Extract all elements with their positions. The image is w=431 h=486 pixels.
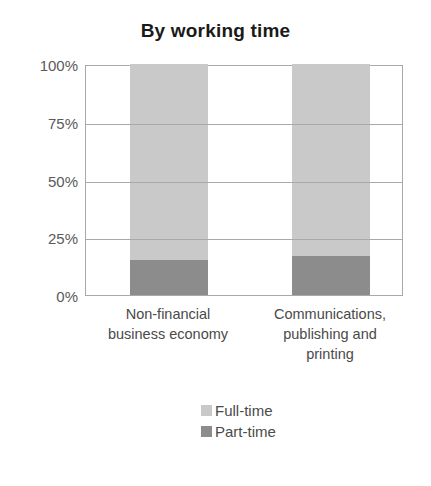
y-tick-label-0: 0% <box>0 288 78 305</box>
chart-legend: Full-time Part-time <box>0 402 431 444</box>
legend-swatch-full-time <box>201 405 212 416</box>
plot-area <box>85 65 403 296</box>
bar-segment-part-time[interactable] <box>130 260 208 295</box>
y-tick-label-25: 25% <box>0 230 78 247</box>
gridline-75 <box>86 124 402 125</box>
bar-segment-full-time[interactable] <box>130 64 208 260</box>
y-tick-label-50: 50% <box>0 172 78 189</box>
category-label-non-financial-business-economy: Non-financial business economy <box>93 304 243 344</box>
gridline-25 <box>86 239 402 240</box>
bar-stack-non-financial-business-economy[interactable] <box>130 64 208 295</box>
category-label-line: publishing and <box>255 324 405 344</box>
category-label-line: Non-financial <box>93 304 243 324</box>
plot-inner <box>86 66 402 295</box>
chart-title: By working time <box>0 20 431 42</box>
category-label-line: business economy <box>93 324 243 344</box>
chart-figure: By working time 100% 75% 50% 25% 0% Non-… <box>0 0 431 486</box>
bar-segment-part-time[interactable] <box>292 256 370 295</box>
y-axis: 100% 75% 50% 25% 0% <box>0 65 78 296</box>
category-label-line: printing <box>255 344 405 364</box>
gridline-50 <box>86 182 402 183</box>
legend-label-part-time: Part-time <box>215 423 276 440</box>
bar-segment-full-time[interactable] <box>292 64 370 256</box>
legend-swatch-part-time <box>201 426 212 437</box>
bar-stack-communications-publishing-printing[interactable] <box>292 64 370 295</box>
category-label-line: Communications, <box>255 304 405 324</box>
x-axis-category-labels: Non-financial business economy Communica… <box>85 304 403 392</box>
legend-item-part-time[interactable]: Part-time <box>0 423 431 440</box>
category-label-communications-publishing-printing: Communications, publishing and printing <box>255 304 405 364</box>
y-tick-label-100: 100% <box>0 57 78 74</box>
legend-label-full-time: Full-time <box>215 402 273 419</box>
legend-item-full-time[interactable]: Full-time <box>0 402 431 419</box>
y-tick-label-75: 75% <box>0 114 78 131</box>
